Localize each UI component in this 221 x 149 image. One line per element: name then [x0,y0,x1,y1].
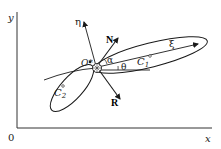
diagram-canvas: y 0 x η O* N α θ ξ C1 C2 R [0,0,221,149]
C2-label: C2 [54,87,67,100]
O-star-label: O* [81,58,93,68]
origin-label: 0 [8,132,14,143]
x-axis-label: x [205,133,211,144]
R-label: R [111,97,119,108]
xi-label: ξ [169,38,175,49]
N-label: N [106,34,114,45]
C1-label: C1 [137,56,149,69]
y-axis-label: y [7,12,14,23]
theta-label: θ [121,62,126,72]
eta-label: η [75,16,81,27]
alpha-label: α [107,55,113,65]
hub-circle [93,64,102,73]
C2-point [62,85,65,88]
R-vector-arrow [99,70,120,99]
C1-point [149,55,152,58]
